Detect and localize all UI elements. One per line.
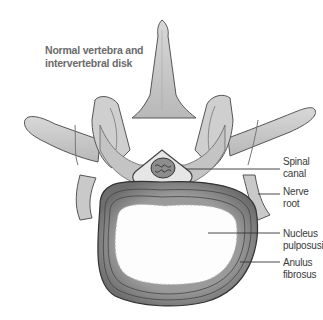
label-anulus-fibrosus-line2: fibrosus [283, 269, 316, 281]
label-spinal-canal-line2: canal [283, 168, 310, 180]
label-nerve-root: Nerve root [283, 186, 309, 210]
nucleus-pulposus [115, 205, 237, 285]
label-anulus-fibrosus-line1: Anulus [283, 257, 316, 269]
transverse-process-left [24, 117, 100, 162]
label-nucleus-pulposus: Nucleus pulposusi [283, 228, 323, 252]
label-nucleus-pulposus-line1: Nucleus [283, 228, 323, 240]
figure-title: Normal vertebra and intervertebral disk [45, 44, 143, 70]
label-nerve-root-line2: root [283, 198, 309, 210]
label-anulus-fibrosus: Anulus fibrosus [283, 257, 316, 281]
label-spinal-canal-line1: Spinal [283, 156, 310, 168]
figure-title-line2: intervertebral disk [45, 57, 143, 70]
figure-title-line1: Normal vertebra and [45, 44, 143, 57]
label-nerve-root-line1: Nerve [283, 186, 309, 198]
label-spinal-canal: Spinal canal [283, 156, 310, 180]
transverse-process-right [228, 108, 316, 156]
spinal-canal [133, 150, 192, 185]
label-nucleus-pulposus-line2: pulposusi [283, 240, 323, 252]
